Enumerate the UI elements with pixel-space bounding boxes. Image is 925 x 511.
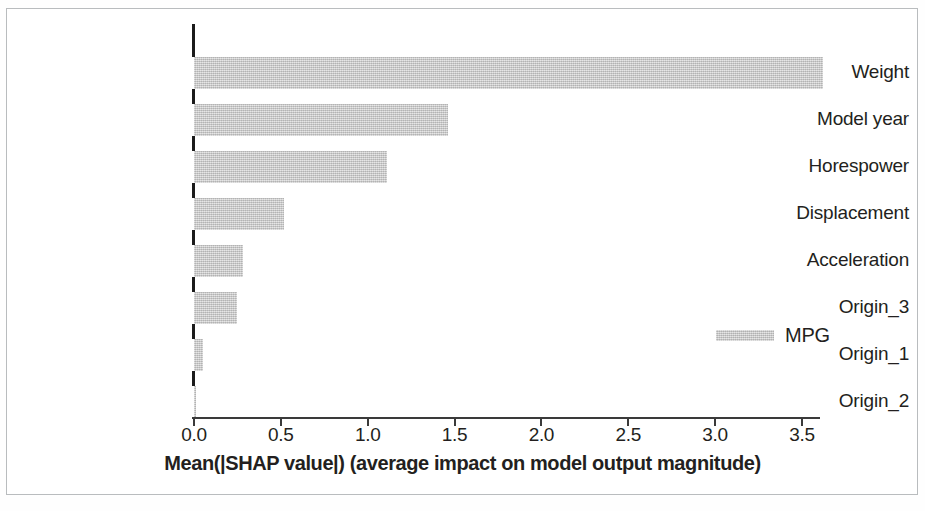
category-label-model-year: Model year — [749, 108, 925, 130]
category-label-horespower: Horespower — [749, 155, 925, 177]
x-tick-label-2-5: 2.5 — [598, 424, 658, 446]
bar-row: Horespower — [0, 128, 925, 175]
bar-row: Origin_2 — [0, 363, 925, 410]
x-tick-label-0-0: 0.0 — [164, 424, 224, 446]
x-tick-label-1-0: 1.0 — [338, 424, 398, 446]
category-label-acceleration: Acceleration — [749, 249, 925, 271]
category-label-origin-3: Origin_3 — [749, 296, 925, 318]
x-tick-label-1-5: 1.5 — [425, 424, 485, 446]
bar-row: Acceleration — [0, 222, 925, 269]
x-tick-label-3-5: 3.5 — [772, 424, 832, 446]
x-axis-title: Mean(|SHAP value|) (average impact on mo… — [0, 452, 925, 475]
bar-origin-2 — [194, 386, 196, 418]
category-label-displacement: Displacement — [749, 202, 925, 224]
legend-swatch-mpg — [716, 330, 774, 341]
legend-label-mpg: MPG — [785, 324, 830, 347]
bar-row: Origin_3 — [0, 269, 925, 316]
x-tick-label-2-0: 2.0 — [511, 424, 571, 446]
x-tick-label-0-5: 0.5 — [251, 424, 311, 446]
category-label-origin-2: Origin_2 — [749, 390, 925, 412]
shap-feature-importance-figure: WeightModel yearHorespowerDisplacementAc… — [0, 0, 925, 511]
x-tick-label-3-0: 3.0 — [685, 424, 745, 446]
plot-area: WeightModel yearHorespowerDisplacementAc… — [0, 0, 925, 511]
x-axis-spine — [192, 417, 820, 419]
bar-row: Weight — [0, 34, 925, 81]
bar-row: Model year — [0, 81, 925, 128]
bar-row: Displacement — [0, 175, 925, 222]
legend: MPG — [716, 324, 830, 347]
